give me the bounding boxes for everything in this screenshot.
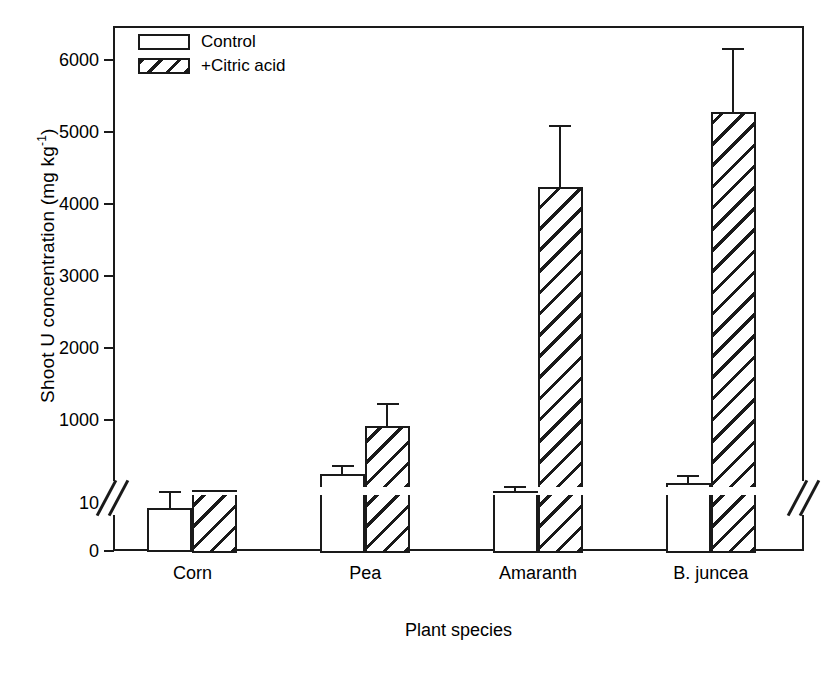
x-axis-tick-label-corn: Corn <box>173 563 212 584</box>
y-axis-tick <box>104 347 114 349</box>
bar-b-juncea-control-lower[interactable] <box>666 495 711 553</box>
bar-b-juncea-control-upper[interactable] <box>666 483 711 487</box>
y-axis-tick-label: 0 <box>19 541 99 562</box>
bar-pea-control-lower[interactable] <box>320 495 365 553</box>
bar-amaranth--citric-acid-error-cap <box>549 125 571 127</box>
y-axis-tick <box>104 131 114 133</box>
bar-corn-control[interactable] <box>147 508 192 553</box>
legend-swatch-control <box>138 34 190 50</box>
bar-b-juncea-control-error-cap <box>677 475 699 477</box>
y-axis-tick-label: 5000 <box>19 122 99 143</box>
y-axis-tick <box>104 419 114 421</box>
bar-b-juncea--citric-acid-error-cap <box>722 48 744 50</box>
legend-item-control: Control <box>138 31 286 53</box>
bar-b-juncea--citric-acid-lower[interactable] <box>711 495 756 553</box>
bar-corn--citric-acid-lower[interactable] <box>192 495 237 553</box>
chart-legend: Control +Citric acid <box>138 31 286 79</box>
bar-amaranth--citric-acid-upper[interactable] <box>538 187 583 487</box>
y-axis-tick <box>104 59 114 61</box>
y-axis-tick <box>104 275 114 277</box>
bar-corn--citric-acid-upper[interactable] <box>192 490 237 492</box>
y-axis-tick-label: 3000 <box>19 266 99 287</box>
y-axis-tick-label: 6000 <box>19 50 99 71</box>
axis-break-icon <box>791 483 817 513</box>
legend-swatch-citric-acid <box>138 58 190 74</box>
bar-pea--citric-acid-error-cap <box>377 403 399 405</box>
bar-amaranth--citric-acid-error-stem <box>559 125 561 188</box>
x-axis-tick-label-pea: Pea <box>349 563 381 584</box>
x-axis-title: Plant species <box>113 620 804 641</box>
bar-corn-control-error-cap <box>159 491 181 493</box>
y-axis-tick <box>104 550 114 552</box>
bar-amaranth-control-upper[interactable] <box>493 491 538 493</box>
bar-b-juncea--citric-acid-error-stem <box>732 48 734 111</box>
bar-amaranth-control-lower[interactable] <box>493 495 538 553</box>
legend-item-citric-acid: +Citric acid <box>138 55 286 77</box>
y-axis-tick-label: 10 <box>19 493 99 514</box>
bar-pea--citric-acid-lower[interactable] <box>365 495 410 553</box>
bar-pea--citric-acid-upper[interactable] <box>365 426 410 487</box>
axis-break-icon <box>100 483 126 513</box>
bar-pea-control-error-cap <box>332 465 354 467</box>
x-axis-tick-label-amaranth: Amaranth <box>499 563 577 584</box>
y-axis-tick-label: 1000 <box>19 410 99 431</box>
y-axis-tick-label: 4000 <box>19 194 99 215</box>
x-axis-tick-label-b-juncea: B. juncea <box>673 563 748 584</box>
y-axis-tick-label: 2000 <box>19 338 99 359</box>
bar-b-juncea--citric-acid-upper[interactable] <box>711 112 756 487</box>
bar-chart-figure: Shoot U concentration (mg kg-1) 01010002… <box>0 0 832 674</box>
y-axis-tick <box>104 203 114 205</box>
plot-frame <box>113 26 804 551</box>
bar-pea-control-upper[interactable] <box>320 474 365 487</box>
bar-pea--citric-acid-error-stem <box>386 403 388 426</box>
bar-amaranth--citric-acid-lower[interactable] <box>538 495 583 553</box>
legend-label-citric-acid: +Citric acid <box>201 56 286 76</box>
bar-amaranth-control-error-cap <box>504 486 526 488</box>
bar-corn-control-error-stem <box>169 491 171 508</box>
legend-label-control: Control <box>201 32 256 52</box>
